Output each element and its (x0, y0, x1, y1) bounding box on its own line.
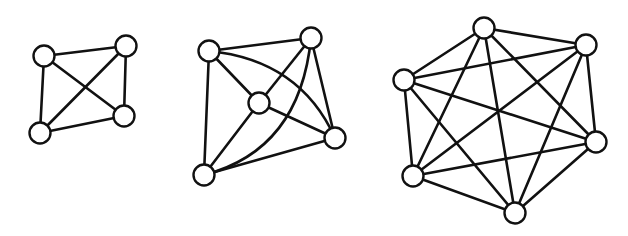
node-k5-b (301, 28, 322, 49)
node-k6-f (505, 203, 526, 224)
edge-k6-b-d (586, 45, 596, 142)
node-k4-d (30, 123, 51, 144)
edge-k4-a-c (44, 56, 124, 116)
edge-k5-b-d (311, 38, 335, 138)
edge-k6-c-e (404, 80, 413, 176)
node-k6-d (586, 132, 607, 153)
node-k4-b (116, 36, 137, 57)
node-k4-c (114, 106, 135, 127)
node-k5-a (199, 41, 220, 62)
node-k4-a (34, 46, 55, 67)
graph-k5 (194, 28, 346, 186)
edge-k6-d-f (515, 142, 596, 213)
node-k6-c (394, 70, 415, 91)
complete-graphs-figure (0, 0, 628, 236)
node-k6-a (474, 18, 495, 39)
node-k5-c (249, 93, 270, 114)
edge-k4-a-b (44, 46, 126, 56)
edge-k5-c-d (259, 103, 335, 138)
node-k6-b (576, 35, 597, 56)
node-k6-e (403, 166, 424, 187)
node-k5-e (194, 165, 215, 186)
edge-k5-a-e (204, 51, 209, 175)
edge-k5-d-e (204, 138, 335, 175)
edge-k5-a-b (209, 38, 311, 51)
node-k5-d (325, 128, 346, 149)
graph-k6 (394, 18, 607, 224)
graph-k4 (30, 36, 137, 144)
